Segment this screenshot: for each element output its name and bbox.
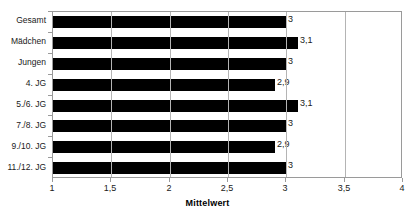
gridline — [345, 12, 346, 177]
table-row: 3 — [53, 12, 401, 33]
y-axis-label: Jungen — [18, 57, 46, 68]
y-axis-label: 5./6. JG — [16, 99, 46, 110]
bar-value-label: 3,1 — [300, 35, 313, 46]
x-axis-tick-label: 2 — [166, 183, 171, 194]
bar-value-label: 3 — [288, 14, 293, 25]
bar-value-label: 3,1 — [300, 98, 313, 109]
table-row: 3 — [53, 158, 401, 179]
y-axis-tick — [48, 157, 52, 158]
table-row: 3,1 — [53, 96, 401, 117]
gridline — [111, 12, 112, 177]
x-axis-tick-label: 2,5 — [221, 183, 234, 194]
bar[interactable] — [53, 37, 298, 49]
x-axis-tick-label: 1,5 — [104, 183, 117, 194]
x-axis-tick — [52, 178, 53, 182]
bar-rows: 33,132,93,132,93 — [53, 12, 401, 177]
chart-title-remnant — [0, 0, 415, 3]
gridline — [228, 12, 229, 177]
bar-value-label: 2,9 — [277, 139, 290, 150]
x-axis-tick-label: 4 — [399, 183, 404, 194]
y-axis-category-labels: GesamtMädchenJungen4. JG5./6. JG7./8. JG… — [0, 11, 50, 178]
y-axis-label: 11./12. JG — [7, 162, 46, 173]
y-axis-tick — [48, 11, 52, 12]
table-row: 2,9 — [53, 75, 401, 96]
x-axis-title: Mittelwert — [0, 198, 415, 208]
bar-value-label: 3 — [288, 118, 293, 129]
bar[interactable] — [53, 100, 298, 112]
y-axis-tick — [48, 95, 52, 96]
gridline — [286, 12, 287, 177]
table-row: 2,9 — [53, 137, 401, 158]
x-axis-tick — [285, 178, 286, 182]
y-axis-tick — [48, 53, 52, 54]
y-axis-label: Mädchen — [11, 36, 46, 47]
y-axis-label: 4. JG — [26, 78, 46, 89]
table-row: 3 — [53, 116, 401, 137]
plot-area: 33,132,93,132,93 — [52, 11, 402, 178]
table-row: 3,1 — [53, 33, 401, 54]
y-axis-tick — [48, 115, 52, 116]
x-axis-tick — [402, 178, 403, 182]
x-axis-tick — [344, 178, 345, 182]
x-axis-tick-label: 1 — [49, 183, 54, 194]
bar-value-label: 2,9 — [277, 77, 290, 88]
x-axis-tick — [169, 178, 170, 182]
bar-value-label: 3 — [288, 56, 293, 67]
y-axis-tick — [48, 136, 52, 137]
y-axis-tick — [48, 32, 52, 33]
x-axis-tick — [227, 178, 228, 182]
y-axis-label: 9./10. JG — [12, 141, 47, 152]
x-axis-tick-label: 3,5 — [338, 183, 351, 194]
bar[interactable] — [53, 141, 275, 153]
y-axis-label: 7./8. JG — [16, 120, 46, 131]
bar-value-label: 3 — [288, 160, 293, 171]
bar-chart: GesamtMädchenJungen4. JG5./6. JG7./8. JG… — [0, 0, 415, 219]
table-row: 3 — [53, 54, 401, 75]
gridline — [170, 12, 171, 177]
x-axis-tick-label: 3 — [282, 183, 287, 194]
y-axis-label: Gesamt — [16, 15, 46, 26]
bar[interactable] — [53, 79, 275, 91]
x-axis-tick — [110, 178, 111, 182]
y-axis-tick — [48, 74, 52, 75]
